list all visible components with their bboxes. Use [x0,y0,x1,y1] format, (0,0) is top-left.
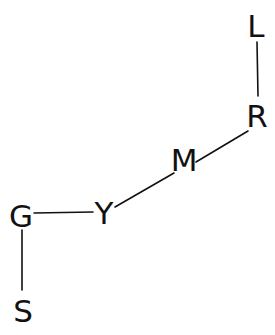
edge-l-r [257,42,258,96]
tree-diagram: L R M Y G S [0,0,275,335]
node-y: Y [94,195,114,231]
node-s: S [13,293,33,329]
edge-m-y [115,173,174,207]
edge-r-m [196,131,248,162]
node-m: M [171,142,198,178]
edge-y-g [34,212,93,213]
node-l: L [247,8,265,44]
node-r: R [246,98,268,134]
node-g: G [9,198,33,234]
